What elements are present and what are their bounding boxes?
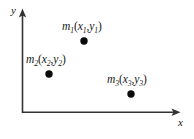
figure-canvas: y x m1(x1,y1) m2(x2,y2) m3(x3,y3) [0,0,194,139]
x-axis: x [22,108,183,128]
point-label-m1-mass: m [62,20,70,32]
point-label-m3-mass: m [107,73,115,85]
point-dot-m2 [45,70,52,77]
data-point-m2: m2(x2,y2) [26,53,66,78]
point-label-m2-mass: m [26,53,34,65]
point-label-m2: m2(x2,y2) [26,53,66,68]
coordinate-diagram: y x m1(x1,y1) m2(x2,y2) m3(x3,y3) [0,0,194,139]
point-label-m1: m1(x1,y1) [62,20,102,35]
point-dot-m3 [127,90,134,97]
x-axis-label: x [177,116,183,128]
y-axis: y [10,4,26,113]
point-dot-m1 [80,37,87,44]
data-point-m3: m3(x3,y3) [107,73,147,98]
y-axis-label: y [10,4,16,16]
data-point-m1: m1(x1,y1) [62,20,102,45]
point-label-m3: m3(x3,y3) [107,73,147,88]
